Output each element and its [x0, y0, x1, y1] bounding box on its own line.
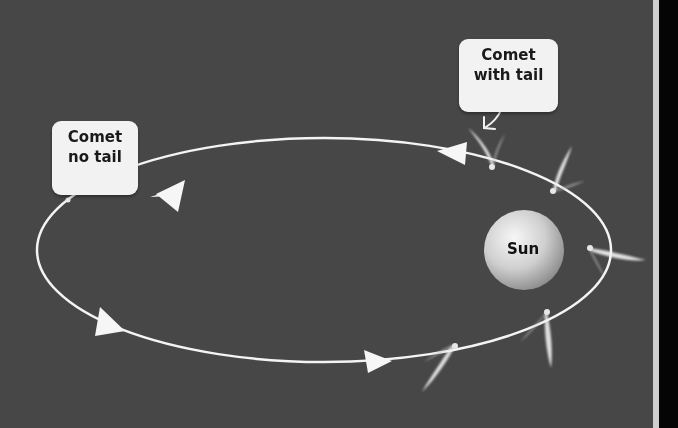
label-line-2: no tail: [58, 147, 132, 167]
page-margin: [659, 0, 678, 428]
arrowhead-icon: [484, 117, 495, 129]
comet-with-tail: [452, 343, 458, 349]
arrow-icon: [156, 180, 185, 212]
arrow-icon: [95, 307, 125, 336]
diagram-canvas: Comet no tail Comet with tail Sun: [0, 0, 678, 428]
comet-no-tail: [66, 198, 71, 203]
label-comet-no-tail: Comet no tail: [52, 121, 138, 195]
label-line-2: with tail: [465, 65, 552, 85]
arrow-icon: [437, 142, 467, 165]
comet-with-tail: [544, 309, 550, 315]
comet-with-tail: [587, 245, 593, 251]
label-comet-with-tail: Comet with tail: [459, 39, 558, 112]
label-line-1: Comet: [465, 45, 552, 65]
sun-label: Sun: [507, 240, 539, 258]
arrow-icon: [364, 350, 392, 373]
label-line-1: Comet: [58, 127, 132, 147]
comet-with-tail: [550, 188, 556, 194]
comet-with-tail: [489, 164, 495, 170]
